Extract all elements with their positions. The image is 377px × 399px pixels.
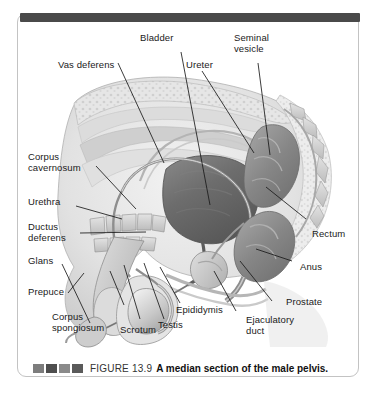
label-scrotum: Scrotum [120, 325, 156, 336]
label-anus: Anus [300, 262, 322, 273]
label-seminal-vesicle: Seminal vesicle [234, 33, 269, 54]
caption-block-1 [33, 364, 44, 373]
label-bladder: Bladder [140, 33, 173, 44]
label-prepuce: Prepuce [28, 287, 64, 298]
caption-block-3 [59, 364, 70, 373]
label-prostate: Prostate [286, 297, 322, 308]
caption-block-2 [46, 364, 57, 373]
label-corpus-cavernosum: Corpus cavernosum [28, 152, 81, 173]
caption-decor-blocks [33, 364, 83, 373]
label-corpus-spongiosum: Corpus spongiosum [52, 312, 104, 333]
label-urethra: Urethra [28, 197, 60, 208]
label-ureter: Ureter [186, 60, 213, 71]
label-glans: Glans [28, 256, 53, 267]
figure-number: FIGURE 13.9 [90, 363, 152, 374]
label-testis: Testis [158, 320, 183, 331]
caption-block-4 [72, 364, 83, 373]
label-ejaculatory-duct: Ejaculatory duct [246, 315, 294, 336]
figure-top-rule [20, 13, 360, 22]
prostate-organ [190, 251, 227, 288]
label-vas-deferens: Vas deferens [58, 60, 114, 71]
figure-caption-row: FIGURE 13.9 A median section of the male… [33, 360, 343, 376]
figure-caption-text: A median section of the male pelvis. [156, 363, 328, 374]
label-epididymis: Epididymis [176, 305, 223, 316]
label-ductus-deferens: Ductus deferens [28, 222, 66, 243]
label-rectum: Rectum [312, 229, 345, 240]
